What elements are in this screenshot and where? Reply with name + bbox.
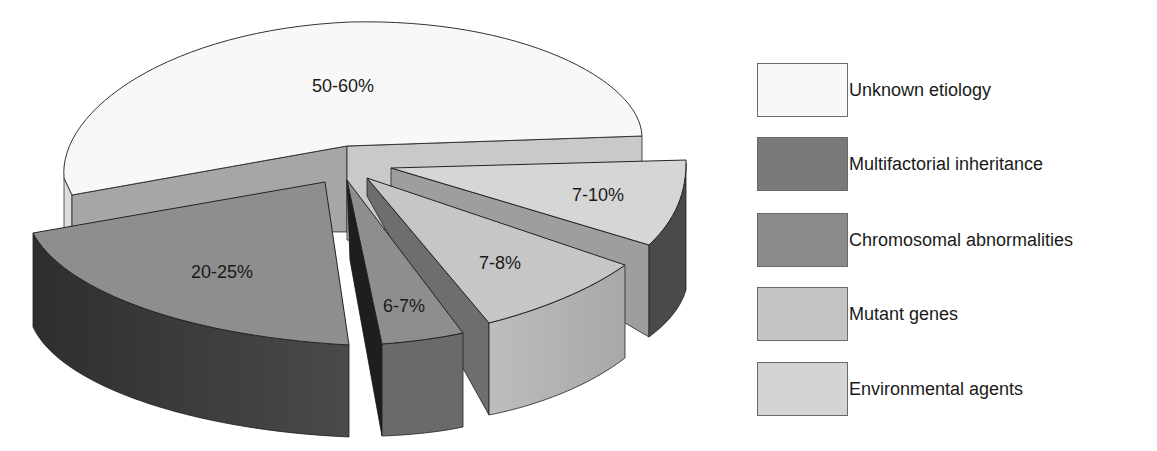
legend-label: Environmental agents	[849, 379, 1023, 400]
label-multifactorial-inheritance: 6-7%	[383, 296, 425, 316]
legend-swatch	[757, 362, 848, 416]
legend-item-environmental-agents: Environmental agents	[757, 362, 1157, 418]
legend-item-unknown-etiology: Unknown etiology	[757, 63, 1157, 119]
pie-chart: 50-60% 20-25% 6-7% 7-8% 7-10%	[0, 0, 720, 451]
label-mutant-genes: 7-8%	[479, 253, 521, 273]
label-environmental-agents: 7-10%	[572, 185, 624, 205]
legend-item-multifactorial-inheritance: Multifactorial inheritance	[757, 137, 1157, 193]
legend-item-mutant-genes: Mutant genes	[757, 287, 1157, 343]
legend-label: Mutant genes	[849, 304, 958, 325]
legend-swatch	[757, 213, 848, 267]
label-chromosomal-abnormalities: 20-25%	[191, 262, 253, 282]
legend-label: Chromosomal abnormalities	[849, 230, 1073, 251]
legend-label: Unknown etiology	[849, 80, 991, 101]
legend-label: Multifactorial inheritance	[849, 154, 1043, 175]
label-unknown-etiology: 50-60%	[312, 76, 374, 96]
legend-swatch	[757, 63, 848, 117]
legend-swatch	[757, 137, 848, 191]
legend-item-chromosomal-abnormalities: Chromosomal abnormalities	[757, 213, 1157, 269]
legend-swatch	[757, 287, 848, 341]
